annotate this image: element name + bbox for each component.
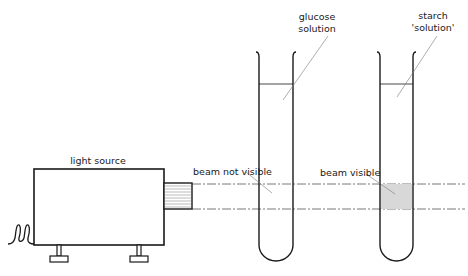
beam-not-visible-label: beam not visible <box>193 166 272 177</box>
glucose-label-line1: glucose <box>299 11 336 22</box>
glucose-label-line2: solution <box>298 23 336 34</box>
light-source-nozzle <box>164 183 192 209</box>
light-beam <box>192 184 465 209</box>
tyndall-effect-diagram: light source beam not visible beam visib… <box>0 0 468 276</box>
starch-label-line1: starch <box>418 10 447 21</box>
beam-visible-label: beam visible <box>320 167 380 178</box>
light-source-label: light source <box>70 155 126 166</box>
test-tube-starch <box>377 52 416 261</box>
test-tube-glucose <box>256 52 296 261</box>
starch-label-line2: 'solution' <box>412 22 455 33</box>
light-source <box>34 169 192 262</box>
light-source-feet <box>50 245 148 262</box>
power-cord-coil-icon <box>8 225 34 244</box>
